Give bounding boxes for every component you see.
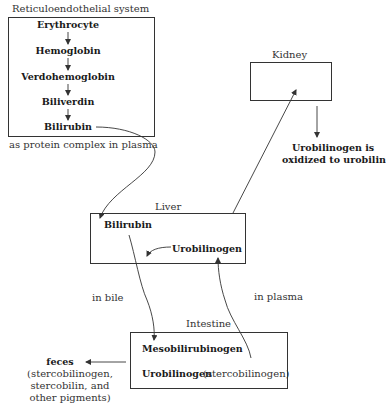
- arrow-res-to-liver: [96, 127, 155, 218]
- arrow-plasma-to-liver: [218, 258, 251, 358]
- arrow-liver-to-kidney: [233, 90, 296, 213]
- arrow-bile-to-intestine: [129, 235, 154, 340]
- arrow-urobilinogen-curl: [147, 247, 171, 256]
